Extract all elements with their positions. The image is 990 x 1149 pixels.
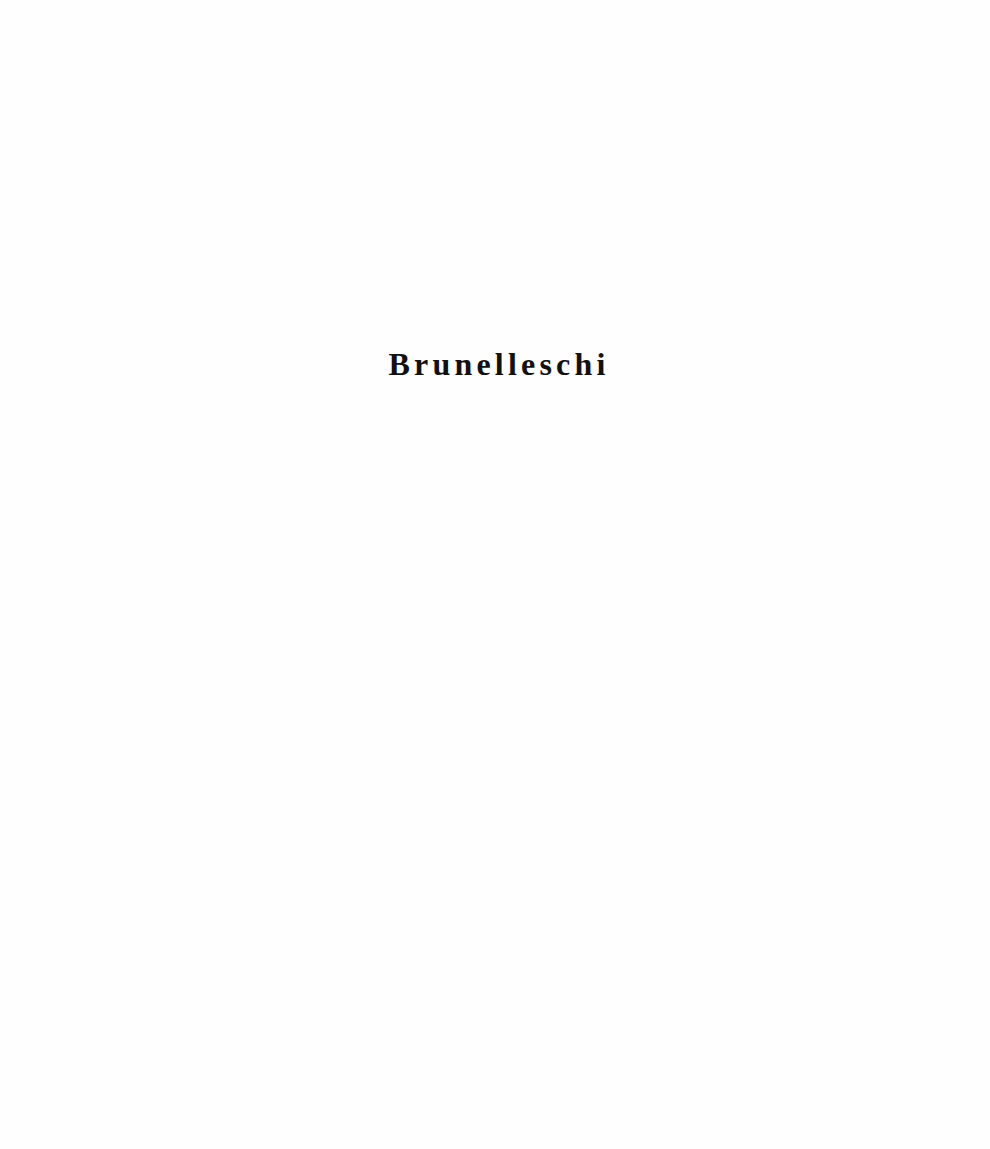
page-title: Brunelleschi [0,344,990,384]
document-page: Brunelleschi [0,0,990,1149]
